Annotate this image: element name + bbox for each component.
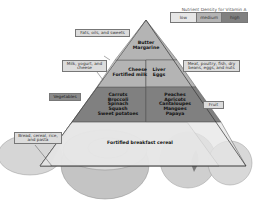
fruit-foods: Peaches Apricots Cantaloupes Mangoes Pap… (146, 93, 204, 117)
legend-medium: medium (197, 13, 223, 22)
fats-foods: Butter Margarine (124, 41, 168, 50)
label-meat: Meat, poultry, fish, dry beans, eggs, an… (183, 60, 240, 72)
label-vegetables: Vegetables (49, 93, 81, 101)
meat-foods: Liver Eggs (148, 68, 170, 77)
label-grains: Bread, cereal, rice, and pasta (14, 132, 62, 144)
vegetables-foods: Carrots Broccoli Spinach Squash Sweet po… (90, 93, 146, 117)
label-fats: Fats, oils, and sweets (75, 29, 130, 37)
grains-foods: Fortified breakfast cereal (100, 141, 180, 146)
nutrient-density-legend: low medium high (170, 12, 248, 23)
label-milk: Milk, yogurt, and cheese (62, 60, 107, 72)
legend-low: low (171, 13, 197, 22)
legend-high: high (222, 13, 247, 22)
label-fruit: Fruit (203, 101, 224, 109)
milk-foods: Cheese Fortified milk (105, 68, 147, 77)
